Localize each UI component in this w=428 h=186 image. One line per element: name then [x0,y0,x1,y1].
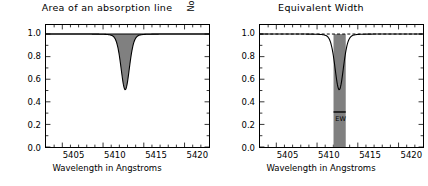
x-tick-label: 5410 [104,150,126,160]
plot-area-right: EW [259,24,424,148]
y-tick-label: 0.2 [225,120,255,130]
y-tick-label: 0.6 [11,74,41,84]
y-tick-label: 0.4 [225,97,255,107]
figure-canvas: Area of an absorption line Normalized fl… [0,0,428,186]
x-tick-label: 5415 [145,150,167,160]
equivalent-width-rectangle [334,34,346,147]
x-tick-label: 5410 [318,150,340,160]
x-axis-label-right: Wavelength in Angstroms [214,163,428,173]
y-tick-label: 0.4 [11,97,41,107]
panel-area-of-absorption-line: Area of an absorption line Normalized fl… [0,0,214,186]
y-tick-label: 0.2 [11,120,41,130]
y-tick-label: 0.0 [11,143,41,153]
x-tick-label: 5405 [63,150,85,160]
equivalent-width-svg [260,25,423,147]
x-tick-label: 5420 [186,150,208,160]
y-tick-label: 0.6 [225,74,255,84]
y-tick-label: 0.8 [11,51,41,61]
x-tick-label: 5420 [400,150,422,160]
panel-equivalent-width: Equivalent Width Normalized flux 0.0 0.2… [214,0,428,186]
y-tick-label: 0.0 [225,143,255,153]
panel-title-equivalent-width: Equivalent Width [214,2,428,13]
y-axis-label-right: Normalized flux [187,0,196,42]
plot-area-left [45,24,210,148]
y-tick-label: 1.0 [11,28,41,38]
absorption-profile-filled-svg [46,25,209,147]
x-tick-label: 5415 [359,150,381,160]
panel-title-area: Area of an absorption line [0,2,214,13]
y-tick-label: 1.0 [225,28,255,38]
x-axis-label-left: Wavelength in Angstroms [0,163,214,173]
x-tick-label: 5405 [277,150,299,160]
y-tick-label: 0.8 [225,51,255,61]
equivalent-width-label: EW [335,115,346,123]
